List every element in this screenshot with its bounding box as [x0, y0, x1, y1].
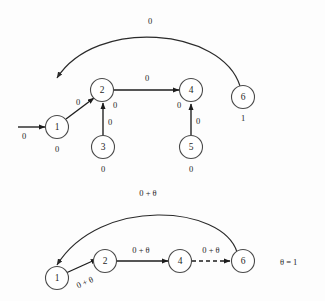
top-edge-2-to-4-label: 0	[145, 73, 149, 83]
theta-note: θ = 1	[280, 257, 297, 267]
bottom-node-2-label: 2	[103, 256, 108, 266]
bottom-edge-6-to-1-label: 0 + θ	[139, 188, 156, 198]
top-edge-1-to-2-label: 0	[76, 97, 80, 107]
top-node-6-value: 1	[241, 113, 245, 123]
bottom-edge-1-to-2-label: 0 + θ	[75, 274, 95, 290]
top-node-5-value: 0	[189, 164, 193, 174]
graph-svg: 0 0 0 0 0 0 1 0	[0, 0, 325, 301]
bottom-node-4-label: 4	[178, 256, 183, 266]
top-graph: 0 0 0 0 0 0 1 0	[18, 16, 255, 174]
bottom-node-1[interactable]: 1	[46, 267, 69, 290]
figure-canvas: 0 0 0 0 0 0 1 0	[0, 0, 325, 301]
bottom-graph: 0 + θ 0 + θ 0 + θ 0 + θ 1 2	[46, 188, 255, 290]
top-node-2-label: 2	[100, 85, 105, 95]
bottom-node-2[interactable]: 2	[94, 250, 117, 273]
top-node-5[interactable]: 5 0	[180, 136, 203, 175]
top-node-2-value: 0	[113, 100, 117, 110]
bottom-edge-4-to-6-label: 0 + θ	[202, 245, 219, 255]
top-node-4-value: 0	[177, 100, 181, 110]
top-node-5-label: 5	[189, 142, 194, 152]
top-node-1-label: 1	[55, 122, 60, 132]
bottom-node-6[interactable]: 6	[232, 250, 255, 273]
top-edge-5-to-4-label: 0	[196, 116, 200, 126]
top-node-1-value: 0	[55, 144, 59, 154]
top-node-4[interactable]: 4 0	[177, 79, 203, 111]
top-node-4-label: 4	[189, 85, 194, 95]
bottom-edge-1-to-2	[66, 259, 97, 273]
top-node-6[interactable]: 6 1	[232, 86, 255, 124]
bottom-node-1-label: 1	[55, 273, 60, 283]
top-node-3-label: 3	[101, 142, 106, 152]
bottom-node-6-label: 6	[241, 256, 246, 266]
top-node-3-value: 0	[101, 164, 105, 174]
bottom-edge-2-to-4-label: 0 + θ	[132, 245, 149, 255]
bottom-node-4[interactable]: 4	[169, 250, 192, 273]
top-node-3[interactable]: 3 0	[92, 136, 115, 175]
top-node-1[interactable]: 1 0	[46, 116, 69, 155]
top-entry-arrow-label: 0	[22, 131, 26, 141]
top-node-6-label: 6	[241, 92, 246, 102]
bottom-edge-6-to-1	[57, 215, 237, 265]
top-edge-3-to-2-label: 0	[108, 117, 112, 127]
top-node-2[interactable]: 2 0	[91, 79, 118, 111]
top-edge-6-to-1-label: 0	[148, 16, 152, 26]
